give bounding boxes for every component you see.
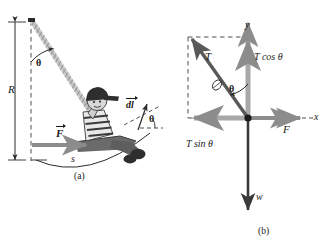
label-angle-theta-dl: θ <box>149 114 154 124</box>
label-displacement-dl: dl <box>126 100 134 110</box>
label-T-sin-theta: T sin θ <box>186 139 213 149</box>
label-axis-x: x <box>314 112 318 122</box>
label-arc-length-s: s <box>71 154 75 164</box>
label-force-F: F <box>56 128 63 139</box>
displacement-dl-vector-hat-tip <box>135 96 138 100</box>
caption-panel-a: (a) <box>74 172 85 182</box>
label-weight-w: w <box>256 192 263 202</box>
pivot-point <box>28 18 35 22</box>
tension-vector-T <box>192 39 248 118</box>
panel-b-graphics <box>170 5 325 245</box>
caption-panel-b: (b) <box>258 227 269 237</box>
force-F-vector-hat-tip <box>63 124 66 128</box>
label-force-F-panel-b: F <box>283 124 290 135</box>
label-angle-theta-pivot: θ <box>36 58 41 68</box>
label-T-cos-theta: T cos θ <box>254 52 283 62</box>
label-angle-theta-panel-b: θ <box>229 84 234 94</box>
label-tension-T: T <box>205 51 211 62</box>
origin-point <box>244 114 251 121</box>
label-radius-R: R <box>8 84 15 95</box>
physics-figure: R θ F s dl θ (a) <box>0 0 325 249</box>
label-axis-y: y <box>245 20 249 30</box>
panel-a-graphics <box>0 0 170 200</box>
